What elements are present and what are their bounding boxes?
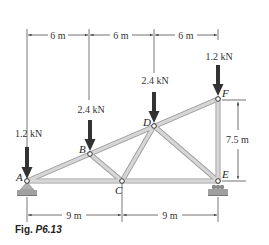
- top-dim-label-2: 6 m: [113, 30, 129, 41]
- joint-label-E: E: [221, 168, 229, 180]
- top-dimension-extension-lines: [27, 29, 218, 172]
- joint-label-D: D: [142, 116, 151, 128]
- joint-label-B: B: [79, 143, 86, 155]
- bottom-dimension-extension-lines: [27, 184, 218, 222]
- load-label-F: 1.2 kN: [205, 51, 232, 62]
- load-arrow-A: [22, 147, 33, 179]
- figure-caption: Fig. P6.13: [15, 224, 62, 235]
- bottom-dim-label-1: 9 m: [66, 210, 82, 221]
- load-label-D: 2.4 kN: [141, 75, 168, 86]
- joint-label-A: A: [15, 171, 23, 183]
- pin-support-A: [17, 182, 37, 196]
- top-dim-label-1: 6 m: [50, 30, 66, 41]
- load-label-A: 1.2 kN: [15, 128, 42, 139]
- bottom-dim-label-2: 9 m: [162, 210, 178, 221]
- joint-label-F: F: [221, 87, 229, 99]
- right-dim-label: 7.5 m: [226, 134, 249, 145]
- roller-support-E: [208, 185, 228, 196]
- truss-members: [27, 99, 218, 181]
- load-arrow-B: [85, 120, 96, 151]
- load-label-B: 2.4 kN: [77, 104, 104, 115]
- top-dim-label-3: 6 m: [178, 30, 194, 41]
- truss-diagram: 6 m 6 m 6 m: [0, 0, 269, 245]
- figure-caption-number: P6.13: [36, 224, 63, 235]
- figure-caption-prefix: Fig.: [15, 224, 33, 235]
